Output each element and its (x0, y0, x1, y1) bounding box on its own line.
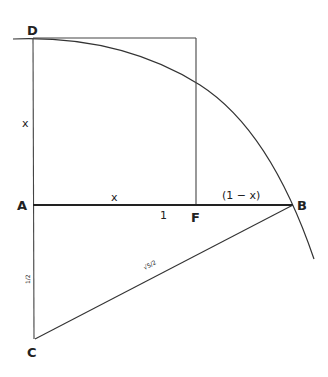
label-unit-mark: 1 (160, 209, 167, 222)
label-AF-x: x (111, 191, 118, 204)
point-label-A: A (17, 198, 27, 213)
label-AD-x: x (22, 117, 29, 130)
point-label-F: F (191, 210, 200, 225)
label-FB: (1 − x) (222, 189, 260, 202)
geometry-diagram: D A F B C x x 1 (1 − x) 1/2 √5/2 (0, 0, 328, 377)
point-label-D: D (27, 23, 38, 38)
label-CB-root5-over-2: √5/2 (142, 258, 157, 271)
arc-circle (13, 39, 314, 259)
line-D-to-C (33, 38, 34, 339)
line-C-to-B (35, 205, 293, 339)
label-AC-half: 1/2 (24, 274, 31, 284)
point-label-B: B (297, 198, 307, 213)
point-label-C: C (27, 345, 37, 360)
